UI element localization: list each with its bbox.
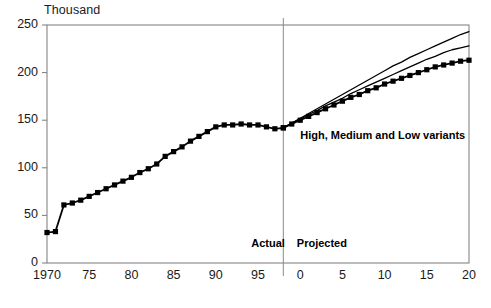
series-marker	[53, 229, 58, 234]
series-marker	[163, 154, 168, 159]
series-marker	[441, 62, 446, 67]
series-marker	[272, 126, 277, 131]
series-marker	[374, 85, 379, 90]
series-line-actual	[47, 124, 283, 233]
series-marker	[382, 81, 387, 86]
series-marker	[120, 179, 125, 184]
series-marker	[357, 92, 362, 97]
series-marker	[213, 124, 218, 129]
series-marker	[348, 95, 353, 100]
series-marker	[230, 122, 235, 127]
series-marker	[323, 106, 328, 111]
x-axis-tick-label: 20	[444, 268, 491, 282]
chart-canvas	[0, 0, 491, 308]
series-marker	[103, 186, 108, 191]
actual-label: Actual	[251, 237, 285, 249]
series-marker	[205, 129, 210, 134]
series-marker	[399, 76, 404, 81]
series-marker	[146, 166, 151, 171]
series-marker	[340, 99, 345, 104]
series-marker	[306, 114, 311, 119]
series-marker	[70, 200, 75, 205]
series-marker	[458, 59, 463, 64]
series-marker	[171, 149, 176, 154]
series-marker	[44, 230, 49, 235]
series-marker	[264, 124, 269, 129]
y-axis-tick-label: 100	[2, 160, 38, 174]
variants-label: High, Medium and Low variants	[300, 129, 465, 141]
series-marker	[247, 122, 252, 127]
y-axis-tick-label: 200	[2, 65, 38, 79]
series-marker	[87, 194, 92, 199]
series-marker	[466, 58, 471, 63]
y-axis-tick-label: 50	[2, 207, 38, 221]
series-marker	[407, 73, 412, 78]
series-marker	[255, 122, 260, 127]
series-marker	[222, 122, 227, 127]
series-marker	[129, 175, 134, 180]
series-marker	[154, 161, 159, 166]
projected-label: Projected	[297, 237, 347, 249]
y-axis-tick-label: 150	[2, 112, 38, 126]
series-marker	[450, 60, 455, 65]
series-marker	[365, 88, 370, 93]
series-marker	[112, 182, 117, 187]
series-marker	[424, 67, 429, 72]
series-marker	[61, 202, 66, 207]
series-marker	[188, 139, 193, 144]
series-marker	[289, 121, 294, 126]
series-marker	[331, 102, 336, 107]
series-marker	[416, 70, 421, 75]
series-marker	[281, 125, 286, 130]
series-marker	[137, 170, 142, 175]
y-axis-tick-label: 0	[2, 255, 38, 269]
population-projection-chart: Thousand 0501001502002501970758085909505…	[0, 0, 491, 308]
series-marker	[95, 190, 100, 195]
series-marker	[239, 121, 244, 126]
series-marker	[298, 118, 303, 123]
series-marker	[314, 110, 319, 115]
series-marker	[390, 79, 395, 84]
series-marker	[433, 64, 438, 69]
plot-frame	[47, 25, 469, 263]
series-marker	[196, 134, 201, 139]
series-marker	[78, 198, 83, 203]
y-axis-tick-label: 250	[2, 17, 38, 31]
series-marker	[179, 144, 184, 149]
